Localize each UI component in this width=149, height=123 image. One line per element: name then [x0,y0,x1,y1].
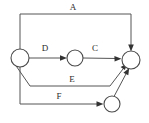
edge-bottom-to-right-path [114,72,127,97]
edge-c-path [83,58,117,59]
edge-e-label: E [69,74,75,84]
node-left-circle[interactable] [11,49,29,67]
edge-c: C [83,43,122,62]
edge-e: E [17,63,128,86]
edge-a-label: A [70,2,77,12]
node-bottom[interactable] [104,96,120,112]
edge-d-arrowhead [60,55,67,60]
edge-a-path [20,14,131,49]
edge-a: A [20,2,134,52]
edge-d: D [29,43,67,61]
graph-diagram: A D C E F [0,0,149,123]
node-bottom-circle[interactable] [104,96,120,112]
node-middle-circle[interactable] [67,50,83,66]
edge-f-arrowhead [97,101,104,106]
edge-c-arrowhead [114,56,121,61]
edge-bottom-to-right [114,68,129,97]
edge-d-label: D [42,43,49,53]
node-left[interactable] [11,49,29,67]
graph-canvas: A D C E F [0,0,149,123]
edge-f: F [20,67,104,107]
edge-f-label: F [56,91,61,101]
edge-c-label: C [92,43,98,53]
node-right[interactable] [122,51,140,69]
node-right-circle[interactable] [122,51,140,69]
node-middle[interactable] [67,50,83,66]
